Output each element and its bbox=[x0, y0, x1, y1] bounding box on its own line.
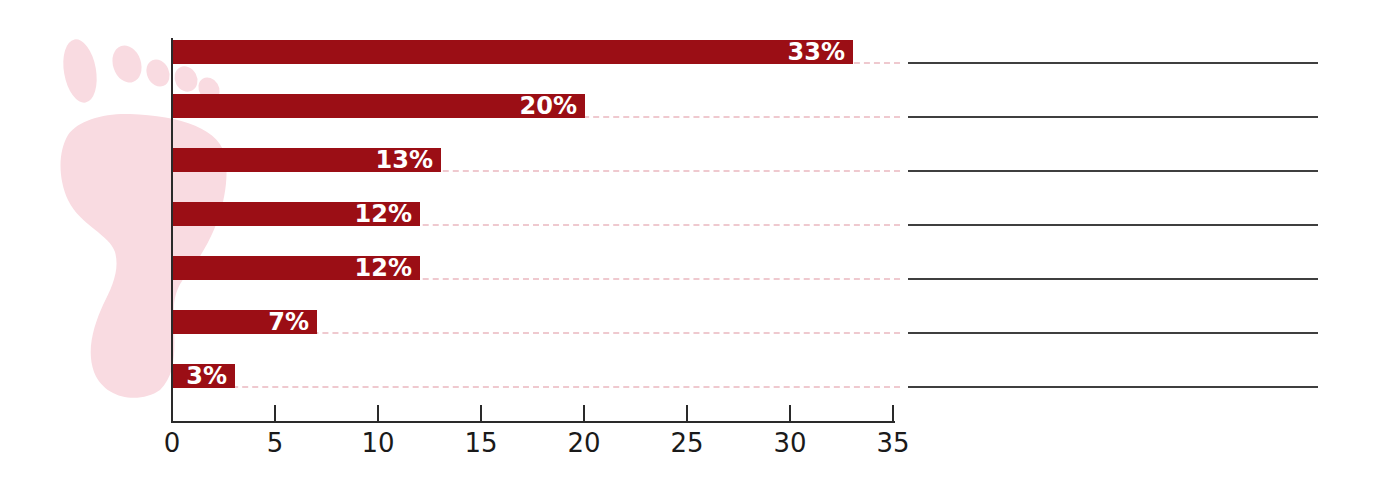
toe-2 bbox=[108, 42, 146, 87]
bar: 20% bbox=[173, 94, 585, 118]
answer-blank-line bbox=[908, 278, 1318, 280]
toe-4 bbox=[170, 62, 202, 95]
answer-blank-line bbox=[908, 386, 1318, 388]
x-tick bbox=[480, 405, 482, 421]
worksheet-bar-chart-page: 33%20%13%12%12%7%3% 05101520253035 bbox=[0, 0, 1391, 480]
bar-value-label: 12% bbox=[355, 202, 420, 226]
bar: 13% bbox=[173, 148, 441, 172]
x-tick bbox=[274, 405, 276, 421]
x-axis bbox=[171, 421, 895, 423]
answer-blank-line bbox=[908, 224, 1318, 226]
bar: 33% bbox=[173, 40, 853, 64]
bar: 12% bbox=[173, 256, 420, 280]
answer-blank-line bbox=[908, 332, 1318, 334]
x-tick-label: 20 bbox=[554, 428, 614, 458]
bar: 7% bbox=[173, 310, 317, 334]
x-tick-label: 35 bbox=[863, 428, 923, 458]
bar-value-label: 13% bbox=[376, 148, 441, 172]
bar: 3% bbox=[173, 364, 235, 388]
x-tick-label: 25 bbox=[657, 428, 717, 458]
x-tick bbox=[686, 405, 688, 421]
x-tick-label: 30 bbox=[760, 428, 820, 458]
x-tick-label: 15 bbox=[451, 428, 511, 458]
x-tick bbox=[377, 405, 379, 421]
bar-value-label: 3% bbox=[186, 364, 235, 388]
answer-blank-line bbox=[908, 116, 1318, 118]
x-tick-label: 5 bbox=[245, 428, 305, 458]
x-tick bbox=[583, 405, 585, 421]
bar-value-label: 20% bbox=[520, 94, 585, 118]
x-tick-label: 0 bbox=[142, 428, 202, 458]
x-tick-label: 10 bbox=[348, 428, 408, 458]
bar: 12% bbox=[173, 202, 420, 226]
answer-blank-line bbox=[908, 62, 1318, 64]
baseline-guide bbox=[172, 386, 900, 388]
big-toe bbox=[59, 37, 102, 106]
bar-value-label: 7% bbox=[268, 310, 317, 334]
x-tick bbox=[171, 405, 173, 421]
bar-value-label: 33% bbox=[788, 40, 853, 64]
x-tick bbox=[789, 405, 791, 421]
toe-3 bbox=[142, 56, 173, 91]
y-axis bbox=[171, 38, 173, 423]
answer-blank-line bbox=[908, 170, 1318, 172]
bar-value-label: 12% bbox=[355, 256, 420, 280]
x-tick bbox=[892, 405, 894, 421]
